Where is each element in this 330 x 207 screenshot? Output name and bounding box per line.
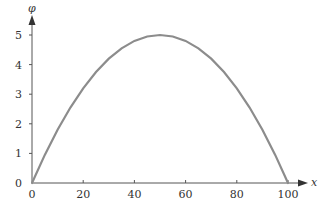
x-axis-arrow-icon — [298, 180, 308, 187]
y-tick-label: 1 — [15, 147, 22, 160]
y-ticks: 012345 — [15, 29, 32, 190]
y-axis-label: φ — [28, 2, 36, 15]
axes: x φ — [28, 2, 318, 189]
x-tick-label: 0 — [29, 188, 36, 201]
x-tick-label: 60 — [179, 188, 193, 201]
x-tick-label: 100 — [278, 188, 299, 201]
y-tick-label: 3 — [15, 88, 22, 101]
x-tick-label: 20 — [76, 188, 90, 201]
y-tick-label: 5 — [15, 29, 22, 42]
data-curve — [32, 35, 288, 183]
y-tick-label: 2 — [15, 118, 22, 131]
y-tick-label: 4 — [15, 59, 22, 72]
y-axis-arrow-icon — [29, 15, 36, 25]
chart: x φ 020406080100 012345 — [0, 0, 330, 207]
x-axis-label: x — [311, 176, 318, 189]
y-tick-label: 0 — [15, 177, 22, 190]
x-tick-label: 40 — [127, 188, 141, 201]
x-tick-label: 80 — [230, 188, 244, 201]
